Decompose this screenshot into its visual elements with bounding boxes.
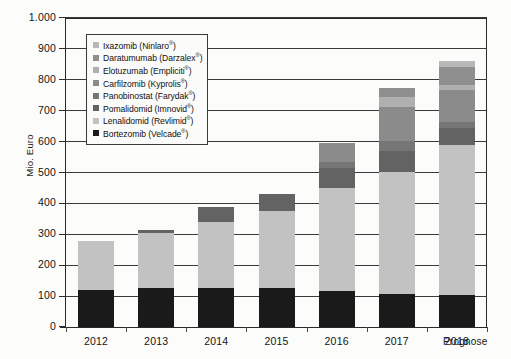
legend-swatch-icon xyxy=(93,105,99,111)
x-tick-mark xyxy=(427,327,428,332)
bar-segment xyxy=(439,67,475,86)
legend-item-label: Carfilzomib (Kyprolis®) xyxy=(103,78,188,89)
bar-segment xyxy=(138,288,174,327)
prognose-note: Prognose xyxy=(443,336,487,347)
y-tick-label: 100 xyxy=(38,289,56,301)
bar-segment xyxy=(78,290,114,327)
bar-2013 xyxy=(138,230,174,327)
bar-segment xyxy=(439,295,475,327)
y-tick-mark xyxy=(59,48,66,49)
y-tick-mark xyxy=(59,203,66,204)
y-tick-mark xyxy=(59,234,66,235)
bar-segment xyxy=(439,122,475,128)
bar-segment xyxy=(439,145,475,295)
x-tick-label: 2012 xyxy=(66,335,126,347)
legend-swatch-icon xyxy=(93,55,99,61)
legend-item-pomalidomid[interactable]: Pomalidomid (Imnovid®) xyxy=(91,102,202,115)
x-tick-mark xyxy=(66,327,67,332)
bar-segment xyxy=(379,172,415,294)
bar-segment xyxy=(198,207,234,222)
chart-figure: Mio. Euro 01002003004005006007008009001.… xyxy=(0,0,511,359)
y-tick-label: 500 xyxy=(38,166,56,178)
y-tick-label: 600 xyxy=(38,135,56,147)
legend: Ixazomib (Ninlaro®)Daratumumab (Darzalex… xyxy=(86,34,208,145)
bar-segment xyxy=(319,291,355,327)
legend-item-label: Panobinostat (Farydak®) xyxy=(103,90,195,101)
bar-segment xyxy=(319,168,355,188)
x-tick-mark xyxy=(246,327,247,332)
x-tick-mark xyxy=(126,327,127,332)
legend-item-lenalidomid[interactable]: Lenalidomid (Revlimid®) xyxy=(91,115,202,128)
legend-item-panobinostat[interactable]: Panobinostat (Farydak®) xyxy=(91,89,202,102)
x-tick-label: 2014 xyxy=(186,335,246,347)
legend-item-bortezomib[interactable]: Bortezomib (Velcade®) xyxy=(91,127,202,140)
y-tick-mark xyxy=(59,79,66,80)
bar-segment xyxy=(198,288,234,327)
y-axis-title: Mio. Euro xyxy=(24,111,35,201)
x-tick-label: 2017 xyxy=(367,335,427,347)
bar-segment xyxy=(379,88,415,97)
x-tick-mark xyxy=(367,327,368,332)
x-tick-mark xyxy=(307,327,308,332)
legend-swatch-icon xyxy=(93,67,99,73)
bar-2016 xyxy=(319,143,355,327)
bar-segment xyxy=(198,222,234,288)
bar-2015 xyxy=(259,194,295,327)
y-tick-label: 700 xyxy=(38,104,56,116)
bar-segment xyxy=(439,85,475,90)
bar-2018 xyxy=(439,61,475,327)
x-tick-label: 2015 xyxy=(247,335,307,347)
legend-swatch-icon xyxy=(93,93,99,99)
bar-segment xyxy=(379,107,415,141)
legend-swatch-icon xyxy=(93,130,99,136)
legend-item-label: Lenalidomid (Revlimid®) xyxy=(103,115,193,126)
y-tick-mark xyxy=(59,110,66,111)
legend-item-label: Ixazomib (Ninlaro®) xyxy=(103,40,176,51)
legend-item-label: Pomalidomid (Imnovid®) xyxy=(103,103,194,114)
bar-segment xyxy=(78,241,114,290)
x-axis-line xyxy=(60,327,488,328)
bar-segment xyxy=(439,90,475,122)
legend-item-label: Elotuzumab (Empliciti®) xyxy=(103,65,191,76)
y-tick-label: 1.000 xyxy=(29,11,56,23)
y-tick-label: 200 xyxy=(38,258,56,270)
x-tick-mark xyxy=(487,327,488,332)
legend-item-carfilzomib[interactable]: Carfilzomib (Kyprolis®) xyxy=(91,77,202,90)
y-tick-mark xyxy=(59,296,66,297)
bar-segment xyxy=(138,233,174,289)
bar-segment xyxy=(379,151,415,172)
bar-segment xyxy=(138,230,174,232)
gridline xyxy=(66,172,487,173)
bar-segment xyxy=(259,211,295,288)
y-tick-mark xyxy=(59,17,66,18)
y-tick-label: 0 xyxy=(50,320,56,332)
bar-segment xyxy=(259,194,295,212)
y-tick-mark xyxy=(59,265,66,266)
bar-segment xyxy=(379,141,415,150)
y-tick-label: 300 xyxy=(38,227,56,239)
x-tick-label: 2016 xyxy=(307,335,367,347)
bar-2014 xyxy=(198,207,234,327)
legend-swatch-icon xyxy=(93,80,99,86)
bar-segment xyxy=(439,128,475,145)
bar-segment xyxy=(319,188,355,292)
y-tick-label: 400 xyxy=(38,196,56,208)
legend-item-label: Daratumumab (Darzalex®) xyxy=(103,52,202,63)
legend-item-ixazomib[interactable]: Ixazomib (Ninlaro®) xyxy=(91,39,202,52)
bar-segment xyxy=(259,288,295,327)
legend-swatch-icon xyxy=(93,118,99,124)
gridline xyxy=(66,17,487,18)
legend-swatch-icon xyxy=(93,42,99,48)
bar-2017 xyxy=(379,88,415,327)
y-tick-mark xyxy=(59,141,66,142)
y-tick-label: 800 xyxy=(38,73,56,85)
bar-segment xyxy=(379,97,415,108)
bar-segment xyxy=(319,143,355,162)
x-tick-mark xyxy=(186,327,187,332)
legend-item-label: Bortezomib (Velcade®) xyxy=(103,128,188,139)
legend-item-daratumumab[interactable]: Daratumumab (Darzalex®) xyxy=(91,52,202,65)
bar-2012 xyxy=(78,241,114,327)
y-tick-label: 900 xyxy=(38,42,56,54)
bar-segment xyxy=(379,294,415,327)
legend-item-elotuzumab[interactable]: Elotuzumab (Empliciti®) xyxy=(91,64,202,77)
